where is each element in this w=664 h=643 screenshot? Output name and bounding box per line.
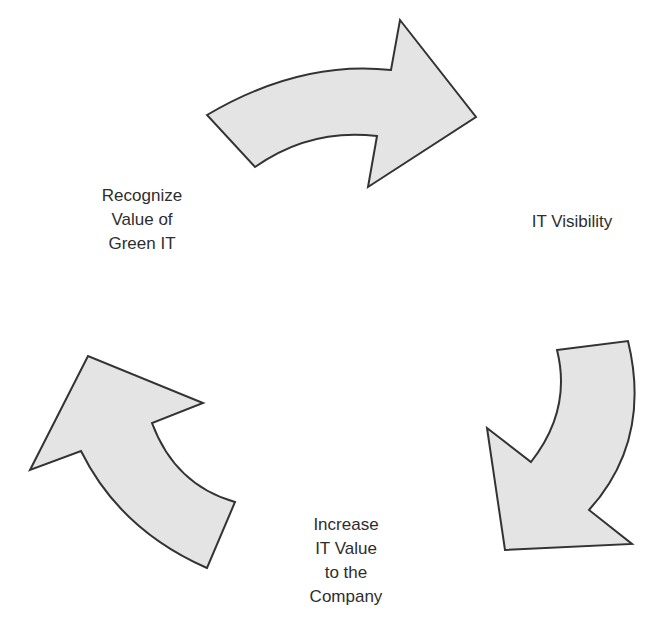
node-line: Increase	[286, 513, 406, 537]
node-line: Company	[286, 585, 406, 609]
node-line: Value of	[78, 208, 206, 232]
node-increase-it-value: Increase IT Value to the Company	[286, 513, 406, 609]
curved-arrow-down-icon	[487, 341, 635, 550]
node-line: Recognize	[78, 184, 206, 208]
curved-arrow-up-icon	[30, 356, 235, 568]
node-line: IT Value	[286, 537, 406, 561]
node-line: to the	[286, 561, 406, 585]
node-it-visibility: IT Visibility	[512, 210, 632, 234]
node-line: Green IT	[78, 232, 206, 256]
node-recognize-value: Recognize Value of Green IT	[78, 184, 206, 256]
node-line: IT Visibility	[512, 210, 632, 234]
curved-arrow-right-icon	[207, 20, 476, 187]
